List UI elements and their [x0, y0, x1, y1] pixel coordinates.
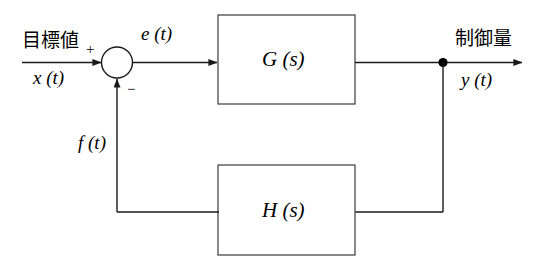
output-signal-label: y (t) — [461, 70, 492, 89]
output-japanese-label: 制御量 — [455, 29, 512, 48]
input-signal-label: x (t) — [33, 68, 64, 87]
block-diagram-canvas: 目標値 + x (t) e (t) − G (s) 制御量 y (t) f (t… — [0, 0, 543, 275]
feedback-block-label: H (s) — [262, 200, 305, 221]
error-signal-label: e (t) — [141, 24, 172, 43]
forward-block-label: G (s) — [262, 49, 305, 70]
summing-junction-plus-sign: + — [86, 42, 94, 57]
summing-junction-circle — [102, 47, 133, 78]
input-japanese-label: 目標値 — [22, 31, 79, 50]
summing-junction-minus-sign: − — [127, 82, 135, 97]
feedback-signal-label: f (t) — [78, 133, 106, 152]
